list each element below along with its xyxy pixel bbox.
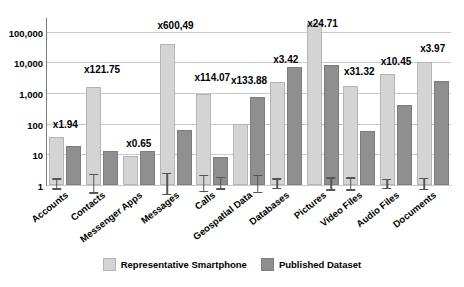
- bar-group: x133.88: [231, 17, 268, 185]
- bar: [307, 23, 322, 185]
- gridline: [47, 185, 451, 186]
- ratio-annotation: x0.65: [126, 139, 151, 149]
- bar-group: x600,49: [157, 17, 194, 185]
- plot-area: 1101001,00010,000100,000 x1.94x121.75x0.…: [46, 18, 450, 186]
- y-axis-tick-label: 10: [3, 151, 43, 160]
- ratio-annotation: x121.75: [84, 65, 120, 75]
- legend-label: Representative Smartphone: [121, 259, 247, 270]
- x-axis-tick-label: Accounts: [30, 190, 70, 225]
- bar-groups: x1.94x121.75x0.65x600,49x114.07x133.88x3…: [47, 17, 451, 185]
- bar: [140, 151, 155, 185]
- x-label-cell: Documents: [413, 188, 450, 260]
- y-axis-tick-label: 1,000: [3, 90, 43, 99]
- bar: [196, 94, 211, 185]
- bar-group: x31.32: [341, 17, 378, 185]
- y-axis-tick-label: 10,000: [3, 59, 43, 68]
- bar: [86, 87, 101, 185]
- legend-swatch: [261, 258, 274, 271]
- x-label-cell: Accounts: [46, 188, 83, 260]
- x-axis-labels: AccountsContactsMessenger AppsMessagesCa…: [46, 188, 450, 260]
- y-axis-tick-label: 1: [3, 182, 43, 191]
- bar-group: x3.42: [267, 17, 304, 185]
- bar-group: x3.97: [414, 17, 451, 185]
- bar: [380, 74, 395, 185]
- ratio-annotation: x600,49: [157, 21, 193, 31]
- ratio-annotation: x31.32: [344, 67, 375, 77]
- legend-item: Published Dataset: [261, 258, 361, 271]
- chart-legend: Representative SmartphonePublished Datas…: [0, 258, 464, 271]
- y-axis-tick-label: 100: [3, 121, 43, 130]
- ratio-annotation: x3.97: [420, 44, 445, 54]
- ratio-annotation: x133.88: [231, 76, 267, 86]
- x-label-cell: Messages: [156, 188, 193, 260]
- bar: [324, 65, 339, 185]
- bar: [417, 62, 432, 185]
- ratio-annotation: x10.45: [381, 57, 412, 67]
- bar: [360, 131, 375, 185]
- legend-item: Representative Smartphone: [103, 258, 247, 271]
- bar: [250, 97, 265, 185]
- bar: [103, 151, 118, 185]
- bar: [49, 137, 64, 185]
- ratio-annotation: x114.07: [194, 73, 230, 83]
- y-axis-tick-label: 100,000: [3, 29, 43, 38]
- x-label-cell: Messenger Apps: [119, 188, 156, 260]
- x-axis-tick-label: Calls: [193, 190, 217, 212]
- ratio-annotation: x3.42: [273, 55, 298, 65]
- ratio-annotation: x24.71: [307, 19, 338, 29]
- legend-label: Published Dataset: [279, 259, 361, 270]
- x-label-cell: Databases: [266, 188, 303, 260]
- bar: [287, 67, 302, 185]
- bar: [233, 124, 248, 185]
- bar: [66, 146, 81, 185]
- ratio-annotation: x1.94: [53, 120, 78, 130]
- bar-group: x24.71: [304, 17, 341, 185]
- bar: [123, 156, 138, 185]
- bar: [343, 86, 358, 185]
- legend-swatch: [103, 258, 116, 271]
- bar-group: x0.65: [120, 17, 157, 185]
- bar: [397, 105, 412, 185]
- bar: [270, 82, 285, 185]
- bar: [160, 44, 175, 185]
- bar-group: x114.07: [194, 17, 231, 185]
- bar: [434, 81, 449, 185]
- bar: [177, 130, 192, 185]
- bar-group: x121.75: [84, 17, 121, 185]
- x-label-cell: Geospatial Data: [230, 188, 267, 260]
- bar-chart: 1101001,00010,000100,000 x1.94x121.75x0.…: [0, 0, 464, 287]
- bar-group: x1.94: [47, 17, 84, 185]
- bar-group: x10.45: [378, 17, 415, 185]
- bar: [213, 157, 228, 185]
